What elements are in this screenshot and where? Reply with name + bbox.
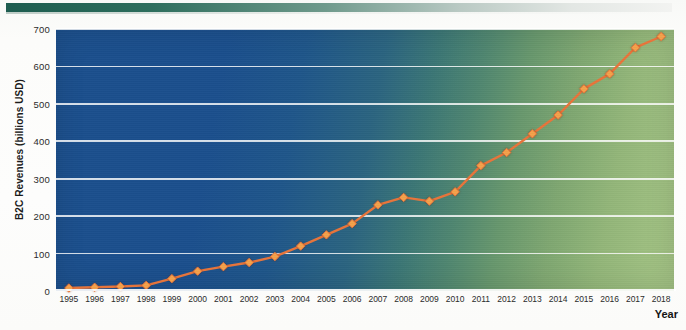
series-line <box>69 36 661 288</box>
data-point-marker <box>245 258 253 266</box>
y-tick-label: 600 <box>2 61 50 72</box>
x-tick-label: 2001 <box>214 294 233 304</box>
x-tick-label: 1999 <box>162 294 181 304</box>
data-point-marker <box>271 252 279 260</box>
series-markers <box>65 32 666 292</box>
data-point-marker <box>193 267 201 275</box>
plot-area <box>56 29 674 291</box>
x-tick-label: 1996 <box>85 294 104 304</box>
y-axis-ticks: 0100200300400500600700 <box>0 0 50 330</box>
data-point-marker <box>322 231 330 239</box>
top-decorative-rule <box>6 3 672 12</box>
x-tick-label: 2011 <box>472 294 490 304</box>
x-tick-label: 2018 <box>652 294 671 304</box>
x-tick-label: 2012 <box>497 294 516 304</box>
top-rule-shadow <box>6 12 672 14</box>
y-tick-label: 0 <box>2 286 50 297</box>
x-tick-label: 1997 <box>111 294 130 304</box>
x-tick-label: 1998 <box>137 294 156 304</box>
y-tick-label: 500 <box>2 98 50 109</box>
x-tick-label: 2015 <box>574 294 593 304</box>
y-tick-label: 300 <box>2 173 50 184</box>
series-line-chart <box>56 29 674 291</box>
data-point-marker <box>168 274 176 282</box>
x-tick-label: 2007 <box>368 294 387 304</box>
x-tick-label: 2003 <box>265 294 284 304</box>
x-tick-label: 2002 <box>240 294 259 304</box>
x-axis-title: Year <box>655 308 678 320</box>
x-tick-label: 2016 <box>600 294 619 304</box>
data-point-marker <box>657 32 665 40</box>
x-tick-label: 2004 <box>291 294 310 304</box>
y-tick-label: 100 <box>2 248 50 259</box>
y-tick-label: 700 <box>2 24 50 35</box>
x-tick-label: 2005 <box>317 294 336 304</box>
x-tick-label: 2013 <box>523 294 542 304</box>
y-tick-label: 400 <box>2 136 50 147</box>
data-point-marker <box>296 242 304 250</box>
data-point-marker <box>219 262 227 270</box>
x-tick-label: 2006 <box>343 294 362 304</box>
x-tick-label: 2010 <box>446 294 465 304</box>
x-tick-label: 2014 <box>549 294 568 304</box>
x-tick-label: 1995 <box>59 294 78 304</box>
data-point-marker <box>425 197 433 205</box>
x-tick-label: 2009 <box>420 294 439 304</box>
x-tick-label: 2000 <box>188 294 207 304</box>
data-point-marker <box>399 193 407 201</box>
x-axis-line <box>56 289 676 291</box>
x-axis-ticks: 1995199619971998199920002001200220032004… <box>56 294 674 310</box>
y-tick-label: 200 <box>2 211 50 222</box>
x-tick-label: 2008 <box>394 294 413 304</box>
x-tick-label: 2017 <box>626 294 645 304</box>
